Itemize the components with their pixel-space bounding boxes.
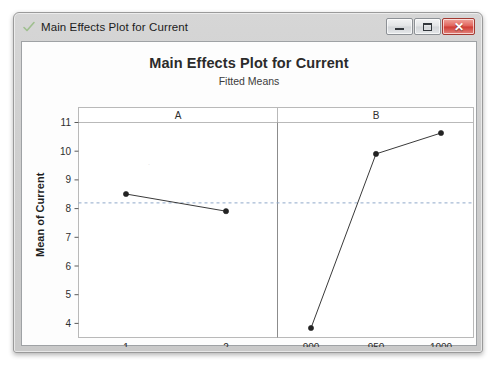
- graph-client-area: Main Effects Plot for Current Fitted Mea…: [21, 41, 477, 346]
- maximize-button[interactable]: [414, 18, 441, 35]
- close-button[interactable]: ✕: [442, 18, 475, 35]
- desktop-background: Main Effects Plot for Current ✕ Main Eff…: [0, 0, 496, 370]
- window-titlebar[interactable]: Main Effects Plot for Current ✕: [14, 13, 482, 40]
- y-tick-label: 9: [65, 174, 71, 185]
- y-tick-label: 4: [65, 318, 71, 329]
- canvas-speck: ·: [148, 161, 150, 167]
- x-tick-label: 950: [368, 342, 385, 347]
- check-icon: [22, 20, 36, 34]
- x-tick-label: 900: [303, 342, 320, 347]
- y-axis-title: Mean of Current: [34, 172, 46, 257]
- y-tick-label: 8: [65, 203, 71, 214]
- y-tick-label: 7: [65, 232, 71, 243]
- x-tick-label: 1000: [430, 342, 453, 347]
- data-point: [308, 325, 313, 330]
- y-tick-label: 6: [65, 261, 71, 272]
- maximize-icon: [423, 23, 432, 31]
- y-tick-label: 10: [60, 146, 72, 157]
- panel-header-label-a: A: [175, 110, 182, 121]
- data-point: [223, 209, 228, 214]
- close-icon: ✕: [454, 21, 464, 33]
- minimize-button[interactable]: [386, 18, 413, 35]
- y-tick-label: 11: [61, 117, 72, 128]
- plot-frame: [79, 123, 474, 338]
- window-title: Main Effects Plot for Current: [41, 21, 386, 33]
- panel-header-label-b: B: [373, 110, 380, 121]
- minimize-icon: [395, 28, 404, 30]
- y-tick-label: 5: [65, 289, 71, 300]
- x-tick-label: 1: [123, 342, 129, 347]
- plot-window: Main Effects Plot for Current ✕ Main Eff…: [13, 12, 483, 353]
- x-axis: 1 2 900 950 1000: [123, 342, 452, 347]
- y-axis: 11 10 9 8 7 6: [60, 117, 79, 329]
- data-point: [123, 191, 128, 196]
- data-point: [373, 151, 378, 156]
- x-tick-label: 2: [223, 342, 229, 347]
- data-point: [438, 130, 443, 135]
- main-effects-plot: Mean of Current A B 11 10: [22, 42, 478, 347]
- window-controls: ✕: [386, 18, 475, 35]
